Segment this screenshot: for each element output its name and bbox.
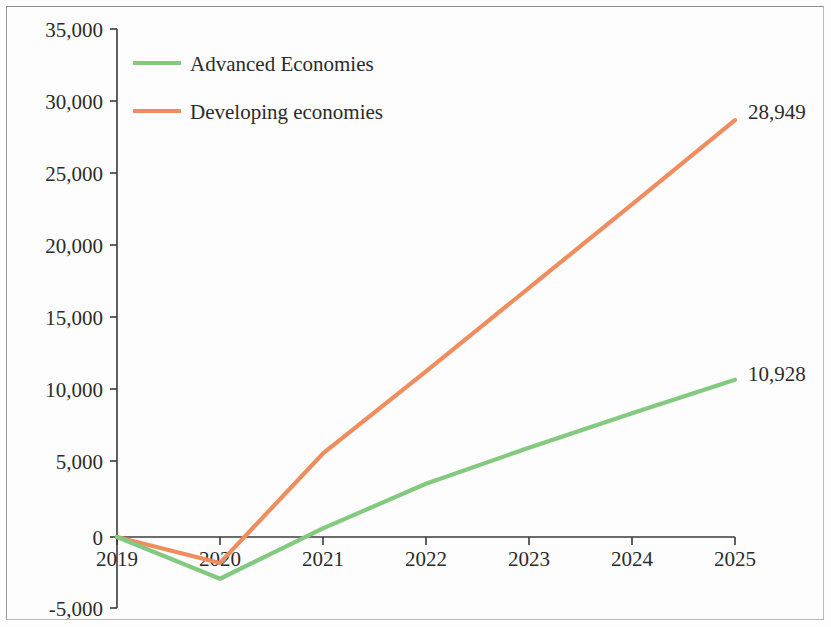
x-tick-label-2023: 2023 [508, 547, 550, 571]
y-tick-label-10000: 10,000 [45, 378, 103, 402]
x-tick-label-2021: 2021 [302, 547, 344, 571]
y-axis-ticks [110, 29, 117, 608]
y-tick-label-35000: 35,000 [45, 18, 103, 42]
series-line-developing-economies [117, 120, 735, 563]
endpoint-label-advanced-economies: 10,928 [748, 362, 806, 386]
x-tick-label-2022: 2022 [405, 547, 447, 571]
y-tick-label-25000: 25,000 [45, 162, 103, 186]
line-chart-plot: 35,000 30,000 25,000 20,000 15,000 10,00… [0, 0, 831, 627]
y-tick-label-5000: 5,000 [56, 450, 103, 474]
x-tick-label-2024: 2024 [611, 547, 654, 571]
y-tick-label-30000: 30,000 [45, 90, 103, 114]
endpoint-label-developing-economies: 28,949 [748, 100, 806, 124]
x-tick-label-2025: 2025 [714, 547, 756, 571]
y-tick-label-20000: 20,000 [45, 234, 103, 258]
y-tick-label-15000: 15,000 [45, 306, 103, 330]
x-tick-label-2019: 2019 [96, 547, 138, 571]
chart-figure: 35,000 30,000 25,000 20,000 15,000 10,00… [0, 0, 831, 627]
legend-label-advanced-economies: Advanced Economies [190, 52, 374, 76]
chart-legend: Advanced Economies Developing economies [133, 52, 383, 124]
legend-label-developing-economies: Developing economies [190, 100, 383, 124]
y-tick-label-minus5000: -5,000 [49, 597, 103, 621]
x-axis-ticks [117, 537, 735, 545]
